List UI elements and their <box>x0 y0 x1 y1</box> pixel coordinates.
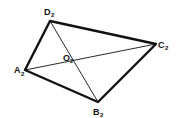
label-b-sub: 2 <box>100 112 104 118</box>
label-b: B <box>93 107 100 117</box>
label-c-sub: 2 <box>165 45 169 51</box>
label-d: D <box>44 7 51 17</box>
diagonal-d-b <box>50 21 98 102</box>
label-a: A <box>14 65 21 75</box>
diagram-canvas: D 2 C 2 A 2 B 2 O 2 <box>0 0 181 118</box>
diagonal-a-c <box>25 44 156 70</box>
label-d-sub: 2 <box>51 12 55 18</box>
label-c: C <box>158 40 165 50</box>
label-a-sub: 2 <box>21 71 25 77</box>
label-o: O <box>63 53 70 63</box>
